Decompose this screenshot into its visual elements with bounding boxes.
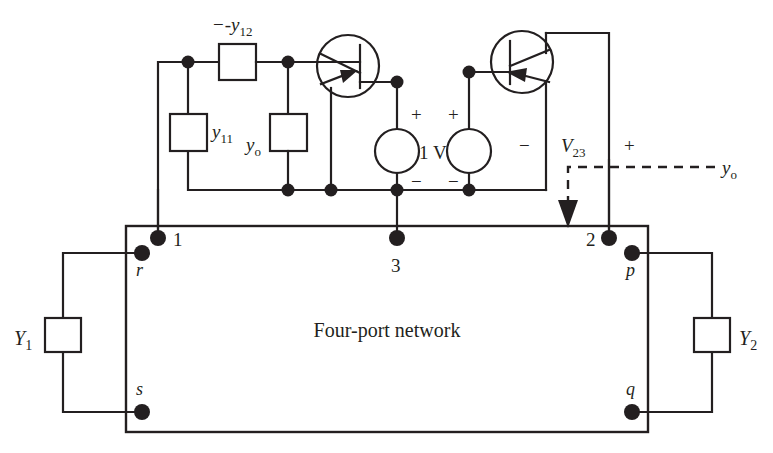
v23-label: V23 — [561, 135, 586, 160]
terminal-dot-3 — [389, 230, 405, 246]
corner-p-label: p — [624, 260, 635, 280]
yo-annotation-dashed-line — [568, 167, 715, 205]
yo-label: yo — [244, 134, 261, 159]
Y1-label: Y1 — [14, 327, 32, 353]
port-2-label: 2 — [586, 229, 596, 250]
v23-minus-sign: − — [519, 135, 530, 156]
yo-box — [270, 114, 307, 151]
terminal-dot-p — [624, 245, 640, 261]
Y2-label: Y2 — [739, 327, 757, 353]
y11-box — [170, 114, 207, 151]
yo-annotation-label: yo — [720, 157, 737, 182]
left-source-minus: − — [411, 171, 422, 192]
port-1-label: 1 — [173, 229, 183, 250]
left-source-plus: + — [411, 104, 422, 125]
corner-s-label: s — [136, 379, 143, 399]
junction-dot — [325, 184, 338, 197]
collector-to-terminal2-wire — [546, 33, 609, 238]
minus-y12-label: −-y12 — [213, 14, 252, 39]
Y2-box — [694, 318, 730, 352]
terminal-dot-r — [134, 245, 150, 261]
right-source-minus: − — [448, 171, 459, 192]
terminal-dot-q — [624, 404, 640, 420]
network-title-label: Four-port network — [314, 319, 461, 342]
source-value-label: 1 V — [419, 142, 447, 163]
junction-dot — [463, 184, 476, 197]
y11-label: y11 — [210, 121, 233, 146]
junction-dot — [391, 184, 404, 197]
terminal-dot-s — [134, 404, 150, 420]
terminal-dot-2 — [601, 230, 617, 246]
junction-dot — [282, 184, 295, 197]
minus-y12-box — [219, 44, 256, 80]
junction-dot — [391, 76, 404, 89]
junction-dot — [463, 66, 476, 79]
y11-bottom-lead — [188, 151, 190, 190]
junction-dot — [282, 56, 295, 69]
junction-dot — [182, 56, 195, 69]
corner-r-label: r — [136, 260, 144, 280]
left-voltage-source — [375, 129, 419, 173]
circuit-schematic-svg: −-y12 y11 yo 1 V + − + − − + V23 yo 1 3 … — [0, 0, 773, 453]
terminal-dot-1 — [150, 230, 166, 246]
port-3-label: 3 — [391, 255, 401, 276]
circuit-diagram-page: −-y12 y11 yo 1 V + − + − − + V23 yo 1 3 … — [0, 0, 773, 453]
right-voltage-source — [447, 129, 491, 173]
v23-plus-sign: + — [624, 135, 635, 156]
right-source-plus: + — [448, 104, 459, 125]
Y1-box — [45, 318, 81, 352]
yo-annotation-arrowhead — [558, 200, 578, 228]
corner-q-label: q — [626, 379, 635, 399]
